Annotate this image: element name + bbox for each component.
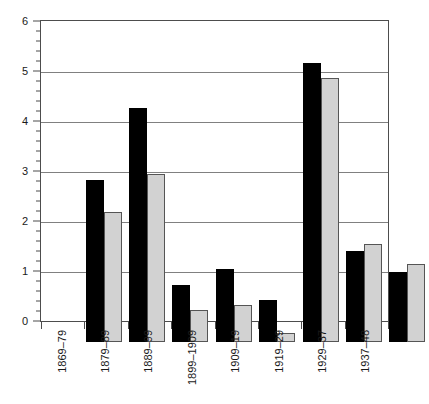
y-minor-tick (36, 151, 40, 152)
bar-group (86, 42, 122, 342)
bar-group (172, 42, 208, 342)
y-minor-tick (36, 181, 40, 182)
y-minor-tick (36, 81, 40, 82)
x-tick-label: 1879–89 (100, 330, 111, 373)
y-major-tick (33, 21, 40, 22)
y-minor-tick (36, 301, 40, 302)
y-major-tick (33, 321, 40, 322)
bar-group (216, 42, 252, 342)
y-minor-tick (36, 61, 40, 62)
x-tick-label: 1929–37 (317, 330, 328, 373)
bar-group (389, 42, 425, 342)
bar-group (303, 42, 339, 342)
x-axis-labels: 1869–791879–891889–991899–19091909–19191… (40, 330, 389, 404)
bar-group (129, 42, 165, 342)
bar-series-a-8 (389, 272, 407, 342)
bar-group (259, 42, 295, 342)
y-axis: 0123456 (0, 0, 40, 404)
bar-series-b-2 (147, 174, 165, 342)
y-minor-tick (36, 131, 40, 132)
x-tick (258, 322, 259, 329)
x-tick (41, 322, 42, 329)
y-minor-tick (36, 241, 40, 242)
y-minor-tick (36, 141, 40, 142)
y-minor-tick (36, 101, 40, 102)
y-minor-tick (36, 161, 40, 162)
y-tick-label: 1 (22, 266, 28, 277)
y-tick-label: 4 (22, 116, 28, 127)
y-tick-label: 0 (22, 316, 28, 327)
bar-series-a-2 (129, 108, 147, 342)
plot-area (40, 20, 389, 322)
x-tick (345, 322, 346, 329)
y-major-tick (33, 271, 40, 272)
y-minor-tick (36, 111, 40, 112)
x-tick (215, 322, 216, 329)
y-minor-tick (36, 281, 40, 282)
bar-series-b-6 (321, 78, 339, 342)
y-minor-tick (36, 191, 40, 192)
x-tick-label: 1937–48 (360, 330, 371, 373)
y-tick-label: 5 (22, 66, 28, 77)
y-minor-tick (36, 261, 40, 262)
x-tick-label: 1919–29 (274, 330, 285, 373)
bar-series-a-6 (303, 63, 321, 342)
y-minor-tick (36, 91, 40, 92)
y-minor-tick (36, 31, 40, 32)
y-major-tick (33, 121, 40, 122)
x-axis-ticks (40, 322, 389, 330)
y-minor-tick (36, 51, 40, 52)
y-major-tick (33, 71, 40, 72)
y-minor-tick (36, 211, 40, 212)
y-minor-tick (36, 201, 40, 202)
x-tick (171, 322, 172, 329)
x-tick-label: 1899–1909 (187, 330, 198, 385)
x-tick-label: 1909–19 (230, 330, 241, 373)
bar-series-a-1 (86, 180, 104, 342)
y-major-tick (33, 221, 40, 222)
bars-layer (82, 42, 429, 342)
y-major-tick (33, 171, 40, 172)
bar-series-b-8 (407, 264, 425, 343)
x-tick (388, 322, 389, 329)
y-minor-tick (36, 251, 40, 252)
y-minor-tick (36, 231, 40, 232)
bar-group (346, 42, 382, 342)
x-tick (84, 322, 85, 329)
y-minor-tick (36, 41, 40, 42)
x-tick (301, 322, 302, 329)
y-minor-tick (36, 311, 40, 312)
x-tick-label: 1889–99 (143, 330, 154, 373)
y-tick-label: 2 (22, 216, 28, 227)
y-tick-label: 3 (22, 166, 28, 177)
y-tick-label: 6 (22, 16, 28, 27)
x-tick (128, 322, 129, 329)
x-tick-label: 1869–79 (57, 330, 68, 373)
y-minor-tick (36, 291, 40, 292)
